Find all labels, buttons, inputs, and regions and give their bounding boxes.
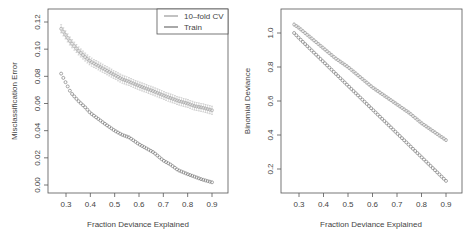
x-tick-label: 0.4: [318, 200, 330, 209]
left-y-axis-label: Misclassification Error: [10, 62, 19, 140]
y-tick-label: 0.00: [33, 177, 42, 193]
right-x-axis: 0.30.40.50.60.70.80.9: [293, 193, 452, 209]
x-tick-label: 0.5: [109, 200, 121, 209]
left-y-axis: 0.000.020.040.060.080.100.12: [33, 14, 48, 193]
x-tick-label: 0.9: [206, 200, 218, 209]
y-tick-label: 0.8: [266, 61, 275, 73]
left-panel: 0.30.40.50.60.70.80.9 0.000.020.040.060.…: [10, 9, 228, 229]
left-x-axis-label: Fraction Deviance Explained: [87, 220, 189, 229]
x-tick-label: 0.8: [182, 200, 194, 209]
x-tick-label: 0.6: [367, 200, 379, 209]
legend: 10–fold CV Train: [157, 9, 228, 34]
series-10-fold-cv: [293, 23, 448, 142]
y-tick-label: 0.02: [33, 150, 42, 166]
right-series: [293, 23, 448, 182]
x-tick-label: 0.7: [158, 200, 170, 209]
x-tick-label: 0.8: [416, 200, 428, 209]
y-tick-label: 0.06: [33, 95, 42, 111]
right-y-axis-label: Binomial Deviance: [243, 67, 252, 134]
x-tick-label: 0.7: [391, 200, 403, 209]
x-tick-label: 0.4: [85, 200, 97, 209]
x-tick-label: 0.9: [440, 200, 452, 209]
y-tick-label: 0.2: [266, 163, 275, 175]
right-x-axis-label: Fraction Deviance Explained: [320, 220, 422, 229]
x-tick-label: 0.3: [293, 200, 305, 209]
series-10-fold-cv: [60, 25, 214, 115]
x-tick-label: 0.5: [342, 200, 354, 209]
y-tick-label: 1.0: [266, 27, 275, 39]
legend-train-label: Train: [184, 23, 202, 32]
left-plot-frame: [48, 9, 228, 193]
y-tick-label: 0.04: [33, 122, 42, 138]
y-tick-label: 0.4: [266, 129, 275, 141]
y-tick-label: 0.6: [266, 95, 275, 107]
series-train: [60, 72, 214, 184]
y-tick-label: 0.12: [33, 14, 42, 30]
figure: 0.30.40.50.60.70.80.9 0.000.020.040.060.…: [0, 0, 466, 239]
series-train: [293, 32, 448, 183]
left-x-axis: 0.30.40.50.60.70.80.9: [60, 193, 218, 209]
y-tick-label: 0.10: [33, 41, 42, 57]
left-series: [60, 25, 214, 184]
y-tick-label: 0.08: [33, 68, 42, 84]
x-tick-label: 0.3: [60, 200, 72, 209]
right-panel: 0.30.40.50.60.70.80.9 0.20.40.60.81.0 Fr…: [243, 9, 462, 229]
x-tick-label: 0.6: [133, 200, 145, 209]
right-y-axis: 0.20.40.60.81.0: [266, 27, 281, 175]
legend-cv-label: 10–fold CV: [184, 12, 224, 21]
